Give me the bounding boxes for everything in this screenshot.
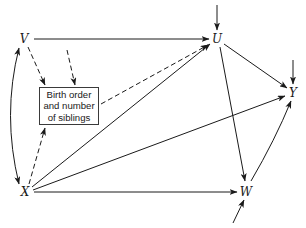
edge-residual-w — [233, 200, 244, 223]
edge-w-y — [251, 101, 291, 181]
birth-order-box: Birth order and number of siblings — [39, 87, 99, 125]
edge-u-w — [220, 47, 245, 181]
node-v: V — [20, 33, 29, 45]
node-w: W — [240, 186, 252, 198]
edge-v-box — [28, 47, 45, 85]
edge-x-box — [29, 128, 45, 184]
box-line-3: of siblings — [48, 112, 91, 124]
edge-external-box — [67, 50, 75, 85]
box-line-2: and number — [43, 100, 94, 112]
edge-box-u — [101, 45, 208, 104]
edge-u-y — [224, 44, 287, 88]
edge-v-x-correlation — [11, 48, 20, 184]
node-y: Y — [289, 87, 297, 99]
box-line-1: Birth order — [47, 89, 92, 101]
node-x: X — [21, 186, 30, 198]
node-u: U — [212, 33, 222, 45]
